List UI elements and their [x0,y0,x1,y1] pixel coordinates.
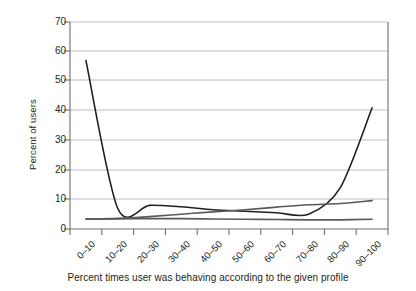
x-axis-tick-labels: 0–1010–2020–3030–4040–5050–6060–7070–808… [0,0,416,291]
chart-figure: 70 60 50 40 30 20 10 0 0–1010–2020–3030–… [0,0,416,291]
x-tick-label: 0–10 [60,239,97,276]
x-tick-label: 40–50 [187,239,224,276]
x-tick-label: 60–70 [251,239,288,276]
y-axis-title: Percent of users [27,99,38,170]
x-axis-title: Percent times user was behaving accordin… [0,272,416,283]
x-tick-label: 80–90 [315,239,352,276]
x-tick-label: 70–80 [283,239,320,276]
x-tick-label: 20–30 [124,239,161,276]
x-tick-label: 90–100 [346,239,383,276]
x-tick-label: 30–40 [156,239,193,276]
x-tick-label: 10–20 [92,239,129,276]
x-tick-label: 50–60 [219,239,256,276]
